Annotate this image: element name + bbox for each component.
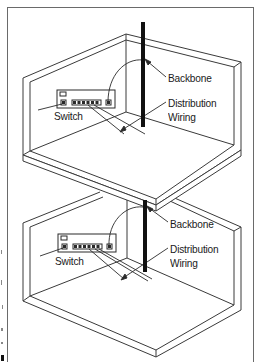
upper-backbone xyxy=(141,22,145,127)
lower-switch xyxy=(58,234,116,252)
lower-backbone-label: Backbone xyxy=(170,218,214,230)
lower-room xyxy=(23,192,241,357)
upper-distribution-label-line1: Distribution xyxy=(168,97,217,109)
upper-distribution-label-line2: Wiring xyxy=(168,111,196,123)
upper-switch-label: Switch xyxy=(54,110,83,122)
network-diagram xyxy=(0,0,262,362)
lower-room-outer-wall xyxy=(23,192,100,223)
lower-distribution-label-line2: Wiring xyxy=(170,257,198,269)
upper-backbone-label: Backbone xyxy=(168,72,212,84)
lower-distribution-label-line1: Distribution xyxy=(170,243,219,255)
upper-switch xyxy=(57,90,115,108)
page-edge-marks xyxy=(0,250,6,362)
lower-switch-label: Switch xyxy=(55,255,84,267)
lower-backbone xyxy=(143,200,147,272)
